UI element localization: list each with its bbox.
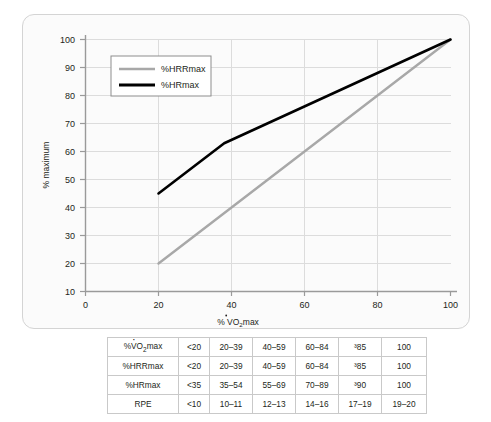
table-cell: 20–39	[210, 357, 253, 376]
row-label-prefix: %	[124, 341, 131, 351]
svg-text:% VO2max: % VO2max	[217, 317, 259, 328]
table-cell: 100	[382, 357, 427, 376]
line-chart: 100 90 80 70 60 50 40 30 20 10 0 20 40 6…	[23, 15, 469, 328]
chart-panel: 100 90 80 70 60 50 40 30 20 10 0 20 40 6…	[22, 14, 470, 329]
table-row: RPE <10 10–11 12–13 14–16 17–19 19–20	[108, 395, 427, 414]
y-tick-label: 100	[60, 35, 75, 45]
table-row-label: %HRRmax	[108, 357, 179, 376]
table-cell: 12–13	[253, 395, 296, 414]
y-tick-label: 30	[65, 231, 75, 241]
y-tick-label: 90	[65, 63, 75, 73]
table-cell: ³90	[339, 376, 382, 395]
table-row-label: %VO2max	[108, 338, 179, 357]
y-tick-label: 70	[65, 119, 75, 129]
x-tick-label: 60	[299, 300, 309, 310]
x-tick-label: 80	[372, 300, 382, 310]
table-cell: <20	[179, 338, 210, 357]
table-row: %HRmax <35 35–54 55–69 70–89 ³90 100	[108, 376, 427, 395]
legend-label-hrrmax: %HRRmax	[161, 64, 206, 74]
table-cell: <35	[179, 376, 210, 395]
y-tick-label: 60	[65, 147, 75, 157]
x-tick-label: 100	[443, 300, 458, 310]
table-cell: 17–19	[339, 395, 382, 414]
table-row: %HRRmax <20 20–39 40–59 60–84 ³85 100	[108, 357, 427, 376]
legend-label-hrmax: %HRmax	[161, 80, 200, 90]
table-cell: 60–84	[296, 338, 339, 357]
row-label-v: V	[131, 341, 137, 351]
table-body: %VO2max <20 20–39 40–59 60–84 ³85 100 %H…	[108, 338, 427, 414]
table-cell: 100	[382, 376, 427, 395]
table-cell: ³85	[339, 357, 382, 376]
figure-root: 100 90 80 70 60 50 40 30 20 10 0 20 40 6…	[0, 0, 491, 422]
table-cell: ³85	[339, 338, 382, 357]
table-cell: 20–39	[210, 338, 253, 357]
table-cell: 14–16	[296, 395, 339, 414]
y-tick-label: 80	[65, 91, 75, 101]
table-cell: 35–54	[210, 376, 253, 395]
table-cell: 70–89	[296, 376, 339, 395]
table-cell: 40–59	[253, 338, 296, 357]
table-cell: 60–84	[296, 357, 339, 376]
x-axis-title-prefix: %	[217, 317, 227, 327]
table-cell: 19–20	[382, 395, 427, 414]
x-axis-title: % VO2max	[217, 315, 259, 328]
v-dot-icon	[225, 315, 227, 317]
table-cell: <20	[179, 357, 210, 376]
x-axis-title-suffix: max	[243, 317, 260, 327]
table-cell: 100	[382, 338, 427, 357]
table-row-label: %HRmax	[108, 376, 179, 395]
table-cell: 40–59	[253, 357, 296, 376]
y-axis-title: % maximum	[41, 142, 51, 189]
x-tick-label: 0	[83, 300, 88, 310]
y-tick-label: 40	[65, 203, 75, 213]
table-cell: <10	[179, 395, 210, 414]
table-cell: 10–11	[210, 395, 253, 414]
x-tick-label: 40	[226, 300, 236, 310]
y-tick-marks	[80, 40, 85, 292]
y-tick-label: 20	[65, 259, 75, 269]
row-label-suffix: max	[147, 341, 163, 351]
x-tick-label: 20	[153, 300, 163, 310]
chart-legend: %HRRmax %HRmax	[111, 56, 211, 96]
y-tick-label: 50	[65, 175, 75, 185]
table-row: %VO2max <20 20–39 40–59 60–84 ³85 100	[108, 338, 427, 357]
y-tick-label: 10	[65, 287, 75, 297]
legend-box	[111, 56, 211, 96]
table-cell: 55–69	[253, 376, 296, 395]
reference-table: %VO2max <20 20–39 40–59 60–84 ³85 100 %H…	[107, 337, 427, 414]
table-row-label: RPE	[108, 395, 179, 414]
